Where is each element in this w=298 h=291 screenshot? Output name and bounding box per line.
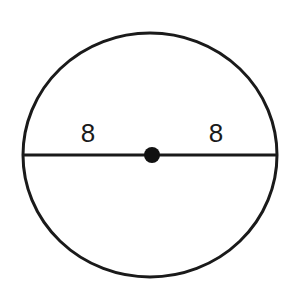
center-point xyxy=(144,147,160,163)
radius-label-left: 8 xyxy=(81,118,95,148)
radius-label-right: 8 xyxy=(209,118,223,148)
circle-diagram: 8 8 xyxy=(0,0,298,291)
